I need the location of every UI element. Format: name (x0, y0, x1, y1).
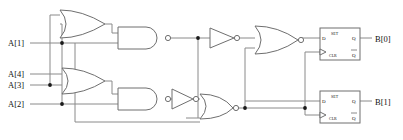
bubble-nor-1 (298, 37, 303, 42)
ff0-pin-q: Q (352, 36, 356, 41)
ff1-pin-qbar: Q (352, 116, 356, 121)
gate-nor-2 (200, 94, 239, 119)
gate-nand-1 (118, 27, 171, 49)
junction-nor2-out (243, 106, 247, 110)
logic-circuit-diagram: D SET Q CLR Q D SET Q CLR Q A[1] A[4] A[… (0, 0, 403, 140)
bubble-inverter-2 (193, 96, 198, 101)
ff0-pin-set: SET (331, 31, 339, 36)
ff1-pin-clr: CLR (329, 116, 337, 121)
gate-inverter-1 (210, 28, 240, 48)
gate-or-1 (60, 10, 105, 38)
flipflop-1: D SET Q CLR Q (320, 91, 360, 123)
junction-a1 (60, 41, 64, 45)
input-label-a2: A[2] (8, 99, 24, 109)
input-label-a3: A[3] (8, 80, 24, 90)
gate-or-2 (62, 68, 105, 94)
ff0-pin-qbar: Q (352, 53, 356, 58)
output-label-b0: B[0] (375, 34, 391, 44)
bubble-nand-1 (165, 35, 170, 40)
ff1-pin-set: SET (331, 94, 339, 99)
junction-nand1-out (196, 36, 200, 40)
ff1-pin-d: D (322, 99, 326, 104)
ff0-pin-d: D (322, 36, 326, 41)
gate-inverter-2 (172, 89, 199, 109)
bubble-inverter-1 (234, 35, 239, 40)
gate-nor-1 (255, 26, 304, 54)
input-label-a4: A[4] (8, 69, 24, 79)
output-labels: B[0] B[1] (375, 34, 391, 107)
bubble-nor-2 (233, 105, 238, 110)
ff1-pin-q: Q (352, 99, 356, 104)
bubble-nand-2 (165, 96, 170, 101)
junction-a3 (48, 83, 52, 87)
input-label-a1: A[1] (8, 38, 24, 48)
flipflop-0: D SET Q CLR Q (320, 28, 360, 60)
output-label-b1: B[1] (375, 97, 391, 107)
junction-a2 (60, 102, 64, 106)
junction-clock (303, 106, 307, 110)
input-labels: A[1] A[4] A[3] A[2] (8, 38, 24, 109)
gate-nand-2 (118, 88, 171, 110)
ff0-pin-clr: CLR (329, 53, 337, 58)
